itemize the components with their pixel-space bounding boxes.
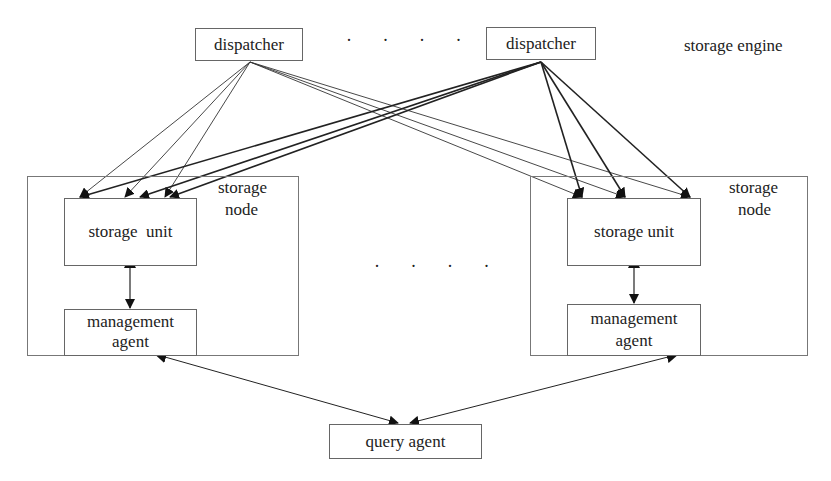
storage-node-right-label-2: node (738, 200, 771, 220)
management-agent-left-line2: agent (65, 332, 196, 352)
dispatcher-2-label: dispatcher (506, 34, 576, 54)
left-agent-query-link (165, 357, 398, 423)
node-ellipsis: · · · · (374, 256, 502, 277)
management-agent-right: management agent (567, 304, 701, 356)
management-agent-right-line1: management (568, 308, 700, 330)
storage-unit-left-label: storage unit (88, 222, 172, 242)
storage-unit-left: storage unit (64, 198, 197, 266)
storage-unit-right: storage unit (567, 198, 701, 266)
storage-unit-right-label: storage unit (594, 222, 674, 242)
query-agent-label: query agent (366, 432, 446, 452)
storage-engine-label: storage engine (684, 36, 783, 56)
dispatcher-ellipsis: · · · · (346, 30, 474, 51)
storage-node-left-label-1: storage (218, 178, 267, 198)
dispatcher-1-label: dispatcher (214, 35, 284, 55)
storage-node-left-label-2: node (225, 200, 258, 220)
management-agent-right-line2: agent (568, 330, 700, 352)
management-agent-left-line1: management (65, 312, 196, 332)
right-agent-query-link (410, 357, 668, 423)
management-agent-left: management agent (64, 309, 197, 356)
dispatcher-box-1: dispatcher (195, 28, 303, 61)
storage-node-right-label-1: storage (729, 178, 778, 198)
query-agent-box: query agent (329, 424, 482, 459)
dispatcher-box-2: dispatcher (486, 27, 596, 60)
